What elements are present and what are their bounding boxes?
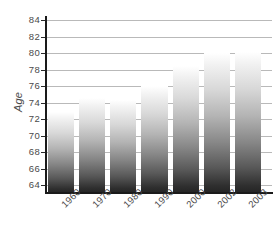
x-axis-labels: 1960197019801990200020022003 <box>0 194 279 244</box>
bar <box>141 86 167 193</box>
y-tick-label: 82 <box>16 31 40 42</box>
plot-area <box>47 14 272 193</box>
y-tick-label: 68 <box>16 146 40 157</box>
bar-chart: Age 6466687072747678808284 1960197019801… <box>0 0 279 244</box>
bar <box>48 112 74 193</box>
y-tick-label: 66 <box>16 163 40 174</box>
bar <box>204 53 230 193</box>
y-tick-label: 76 <box>16 80 40 91</box>
y-tick-label: 72 <box>16 113 40 124</box>
bar <box>79 98 105 193</box>
bar <box>235 52 261 193</box>
bar <box>110 100 136 193</box>
y-tick-label: 64 <box>16 179 40 190</box>
y-tick-label: 78 <box>16 64 40 75</box>
y-tick-label: 80 <box>16 47 40 58</box>
bar-series <box>47 14 272 193</box>
y-tick-label: 74 <box>16 97 40 108</box>
y-tick-label: 70 <box>16 130 40 141</box>
y-axis-line <box>45 16 47 194</box>
bar <box>173 66 199 193</box>
y-tick-label: 84 <box>16 14 40 25</box>
